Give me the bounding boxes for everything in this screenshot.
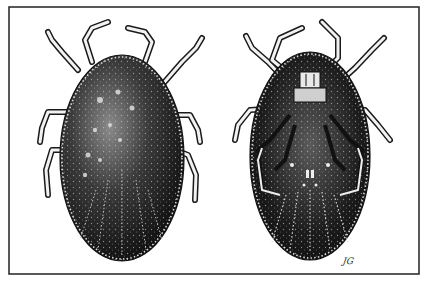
tick-ventral-view xyxy=(235,22,390,260)
tick-dorsal-view xyxy=(40,22,202,261)
artist-signature: JG xyxy=(342,256,354,266)
tick-illustration-plate xyxy=(0,0,430,286)
